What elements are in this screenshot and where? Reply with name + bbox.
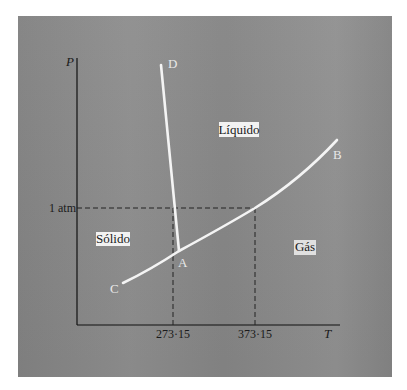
point-c-label: C: [110, 281, 119, 296]
fusion-curve: [161, 65, 179, 251]
point-b-label: B: [333, 147, 342, 162]
region-liquid-label: Líquido: [218, 122, 259, 137]
point-a-label: A: [178, 255, 188, 270]
axis-p-label: P: [65, 54, 74, 69]
tick-1atm-label: 1 atm: [49, 201, 77, 215]
axis-t-label: T: [324, 326, 332, 341]
point-d-label: D: [168, 56, 177, 71]
sublimation-vaporization-curve: [123, 140, 337, 283]
region-gas-label: Gás: [295, 239, 315, 254]
tick-373-label: 373·15: [238, 327, 272, 341]
tick-273-label: 273·15: [156, 327, 190, 341]
phase-diagram: Líquido Sólido Gás D B A C P T 1 atm 273…: [0, 0, 407, 390]
region-solid-label: Sólido: [96, 231, 130, 246]
